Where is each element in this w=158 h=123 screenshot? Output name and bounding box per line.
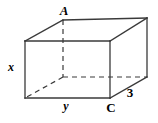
label-vertex-a: A: [60, 4, 69, 17]
label-edge-height-x: x: [8, 61, 14, 73]
front-face-edges: [25, 41, 110, 98]
edge-hidden-depth-bottom-left: [25, 77, 63, 98]
figure-container: A C x y 3: [0, 0, 158, 123]
edge-depth-top-right: [110, 18, 147, 41]
rectangular-prism-drawing: [0, 0, 158, 123]
edge-back-top: [63, 18, 147, 20]
label-edge-width-y: y: [63, 100, 68, 112]
label-vertex-c: C: [106, 101, 115, 114]
edge-depth-top-left: [25, 20, 63, 41]
label-edge-depth-3: 3: [127, 86, 134, 99]
back-face-edges: [63, 18, 147, 77]
